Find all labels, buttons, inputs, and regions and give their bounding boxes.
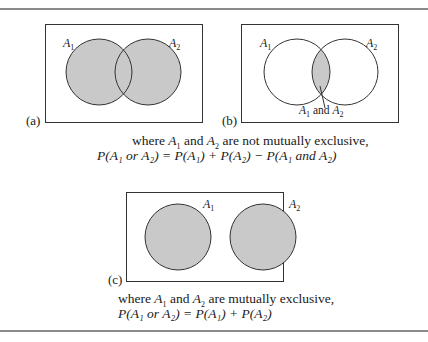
panel-b-set2-label: A2 xyxy=(366,36,377,52)
panel-b-venn xyxy=(264,39,378,108)
panel-c-set2-label: A2 xyxy=(289,197,300,213)
panel-a-set2-label: A2 xyxy=(169,36,180,52)
panel-b-label: (b) xyxy=(222,113,237,129)
panel-a-label: (a) xyxy=(26,113,40,129)
panel-a-venn xyxy=(66,39,181,105)
caption-exclusive-formula: P(A₁ or A₂) = P(A₁) + P(A₂) xyxy=(118,306,272,322)
caption-not-exclusive-formula: P(A₁ or A₂) = P(A₁) + P(A₂) − P(A₁ and A… xyxy=(97,148,336,164)
panel-a-set1-label: A1 xyxy=(63,36,74,52)
panel-b-set1-label: A1 xyxy=(260,36,271,52)
panel-c-venn xyxy=(145,204,296,270)
panel-c-label: (c) xyxy=(108,272,122,288)
panel-c-set1-label: A1 xyxy=(203,197,214,213)
intersection-label: A1 and A2 xyxy=(299,104,343,119)
